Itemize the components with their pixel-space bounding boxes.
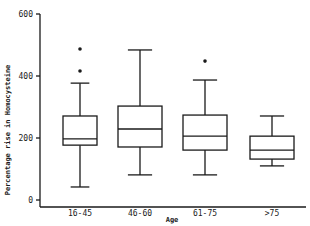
box-plot-chart: 0200400600 16-4546-6061-75>75 Age Percen…	[0, 0, 310, 226]
box-4	[250, 116, 294, 166]
x-tick-label: 46-60	[128, 209, 152, 218]
y-axis-label: Percentage rise in Homocysteine	[4, 65, 12, 196]
y-tick-label: 200	[19, 134, 34, 143]
x-tick-label: 61-75	[193, 209, 217, 218]
outlier-point	[78, 47, 82, 51]
boxes	[63, 47, 294, 187]
y-tick-label: 0	[28, 196, 33, 205]
iqr-box	[63, 116, 97, 145]
y-ticks: 0200400600	[19, 10, 40, 205]
x-tick-label: >75	[265, 209, 280, 218]
box-2	[118, 50, 162, 175]
iqr-box	[118, 106, 162, 147]
iqr-box	[183, 115, 227, 150]
y-tick-label: 600	[19, 10, 34, 19]
y-tick-label: 400	[19, 72, 34, 81]
x-tick-label: 16-45	[68, 209, 92, 218]
outlier-point	[203, 59, 207, 63]
outlier-point	[78, 69, 82, 73]
x-axis-label: Age	[166, 216, 179, 224]
box-3	[183, 59, 227, 175]
box-1	[63, 47, 97, 187]
iqr-box	[250, 136, 294, 159]
